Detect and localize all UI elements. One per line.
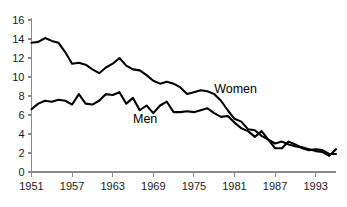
chart-background [0, 0, 347, 207]
y-tick-label: 10 [12, 71, 24, 83]
x-tick-label: 1975 [182, 180, 206, 192]
x-tick-label: 1957 [60, 180, 84, 192]
series-label-women: Women [214, 82, 257, 96]
y-tick-label: 12 [12, 52, 24, 64]
y-tick-label: 2 [18, 147, 24, 159]
chart-canvas: 0246810121416 19511957196319691975198119… [0, 0, 347, 207]
y-tick-label: 16 [12, 14, 24, 26]
x-tick-label: 1951 [19, 180, 43, 192]
x-tick-label: 1987 [263, 180, 287, 192]
y-tick-label: 6 [18, 109, 24, 121]
x-tick-label: 1969 [141, 180, 165, 192]
series-label-men: Men [133, 112, 157, 126]
y-tick-label: 8 [18, 90, 24, 102]
line-chart: 0246810121416 19511957196319691975198119… [0, 0, 347, 207]
x-tick-label: 1981 [222, 180, 246, 192]
y-tick-label: 0 [18, 166, 24, 178]
x-tick-label: 1993 [303, 180, 327, 192]
x-tick-label: 1963 [100, 180, 124, 192]
y-tick-label: 4 [18, 128, 24, 140]
y-tick-label: 14 [12, 33, 24, 45]
